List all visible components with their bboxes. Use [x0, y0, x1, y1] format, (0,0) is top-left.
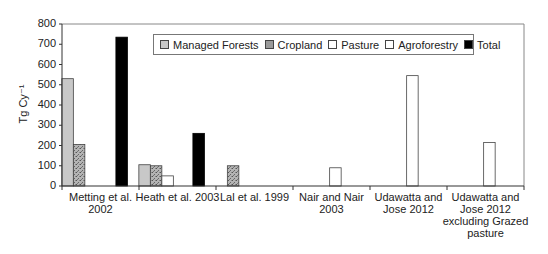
legend-item: Managed Forests: [160, 39, 259, 51]
x-category-label: Udawatta andJose 2012excluding Grazedpas…: [441, 191, 530, 239]
x-category-label: Lal et al. 1999: [210, 191, 299, 203]
y-tick-label: 200: [26, 139, 56, 151]
bar-agroforestry: [330, 168, 342, 186]
legend-swatch-icon: [385, 40, 394, 49]
bar-agroforestry: [407, 76, 419, 186]
legend-item: Pasture: [328, 39, 379, 51]
legend-swatch-icon: [328, 40, 337, 49]
y-tick-label: 300: [26, 118, 56, 130]
x-category-label: Udawatta andJose 2012: [364, 191, 453, 215]
legend-swatch-icon: [160, 40, 169, 49]
bar-managed-forests: [139, 165, 151, 186]
x-category-label: Heath et al. 2003: [133, 191, 222, 203]
x-category-label: Metting et al.2002: [56, 191, 145, 215]
bar-cropland: [150, 166, 162, 186]
bar-pasture: [162, 176, 174, 186]
bar-cropland: [227, 166, 239, 186]
legend-item: Total: [464, 39, 500, 51]
legend-label: Cropland: [278, 39, 323, 51]
bar-agroforestry: [484, 142, 496, 186]
legend-label: Agroforestry: [398, 39, 458, 51]
y-tick-label: 800: [26, 17, 56, 29]
bar-managed-forests: [62, 79, 74, 186]
bar-cropland: [73, 144, 85, 186]
y-tick-label: 700: [26, 37, 56, 49]
bar-total: [116, 37, 128, 186]
y-tick-label: 400: [26, 98, 56, 110]
legend-label: Managed Forests: [173, 39, 259, 51]
legend-item: Agroforestry: [385, 39, 458, 51]
legend-swatch-icon: [464, 40, 473, 49]
legend-label: Total: [477, 39, 500, 51]
bar-chart: 0100200300400500600700800 Tg Cy⁻¹ Mettin…: [0, 0, 548, 254]
y-tick-label: 0: [26, 179, 56, 191]
x-category-label: Nair and Nair2003: [287, 191, 376, 215]
legend-swatch-icon: [265, 40, 274, 49]
bar-total: [193, 133, 205, 186]
legend-label: Pasture: [341, 39, 379, 51]
y-tick-label: 100: [26, 159, 56, 171]
legend: Managed ForestsCroplandPastureAgroforest…: [153, 34, 474, 55]
y-tick-label: 500: [26, 78, 56, 90]
legend-item: Cropland: [265, 39, 323, 51]
y-axis-label: Tg Cy⁻¹: [17, 79, 29, 129]
y-tick-label: 600: [26, 58, 56, 70]
